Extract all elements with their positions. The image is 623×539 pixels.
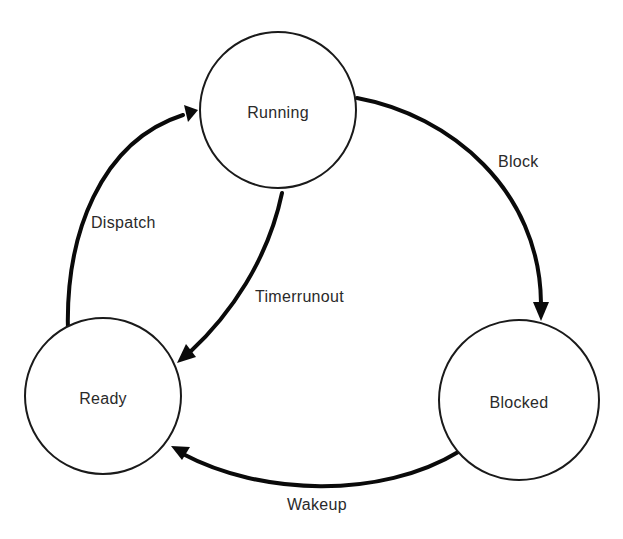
transition-timerrunout: Timerrunout (177, 193, 344, 363)
running-label: Running (247, 104, 309, 121)
wakeup-label: Wakeup (287, 496, 347, 513)
timerrunout-label: Timerrunout (255, 288, 344, 305)
dispatch-arrow-line (68, 115, 183, 352)
wakeup-arrow-line (183, 451, 460, 486)
ready-label: Ready (79, 390, 127, 407)
state-running: Running (200, 32, 356, 188)
block-arrowhead-icon (533, 302, 549, 321)
timerrunout-arrow-line (190, 193, 282, 352)
transition-wakeup: Wakeup (171, 446, 460, 513)
transition-dispatch: Dispatch (68, 105, 198, 352)
dispatch-arrowhead-icon (184, 105, 198, 122)
state-blocked: Blocked (439, 320, 599, 480)
block-arrow-line (357, 98, 541, 303)
state-ready: Ready (25, 318, 181, 474)
blocked-label: Blocked (489, 394, 548, 411)
block-label: Block (498, 153, 539, 170)
process-state-diagram: Block Dispatch Timerrunout Wakeup Runnin… (0, 0, 623, 539)
transition-block: Block (357, 98, 549, 321)
dispatch-label: Dispatch (91, 214, 156, 231)
